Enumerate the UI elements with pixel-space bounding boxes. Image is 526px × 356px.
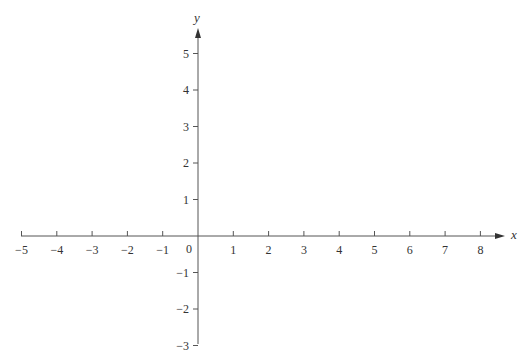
y-axis [195, 28, 201, 344]
x-tick-label: −1 [156, 243, 169, 257]
y-tick-label: 1 [183, 193, 189, 207]
y-tick-label: −2 [176, 302, 189, 316]
x-tick-label: −5 [15, 243, 28, 257]
y-tick-label: 3 [183, 120, 189, 134]
x-tick-label: 4 [336, 243, 342, 257]
x-tick-label: 8 [477, 243, 483, 257]
y-tick-label: 2 [183, 156, 189, 170]
x-tick-label: 6 [407, 243, 413, 257]
x-tick-label: 7 [442, 243, 448, 257]
y-tick-label: 5 [183, 47, 189, 61]
x-tick-label: 2 [266, 243, 272, 257]
x-tick-label: −4 [50, 243, 63, 257]
origin-label: 0 [186, 242, 192, 256]
y-tick-label: −1 [176, 266, 189, 280]
y-tick-label: 4 [183, 83, 189, 97]
x-tick-label: −2 [121, 243, 134, 257]
coordinate-plane: −5−4−3−2−112345678 54321−1−2−3 0 x y [0, 0, 526, 356]
x-axis [21, 233, 505, 239]
x-tick-label: 5 [372, 243, 378, 257]
y-axis-ticks: 54321−1−2−3 [176, 47, 198, 353]
x-tick-label: 1 [230, 243, 236, 257]
y-axis-arrow-icon [195, 28, 201, 38]
x-axis-label: x [510, 227, 517, 242]
y-tick-label: −3 [176, 339, 189, 353]
x-tick-label: 3 [301, 243, 307, 257]
y-axis-label: y [192, 10, 200, 25]
x-axis-ticks: −5−4−3−2−112345678 [15, 231, 483, 257]
x-axis-arrow-icon [495, 233, 505, 239]
x-tick-label: −3 [86, 243, 99, 257]
